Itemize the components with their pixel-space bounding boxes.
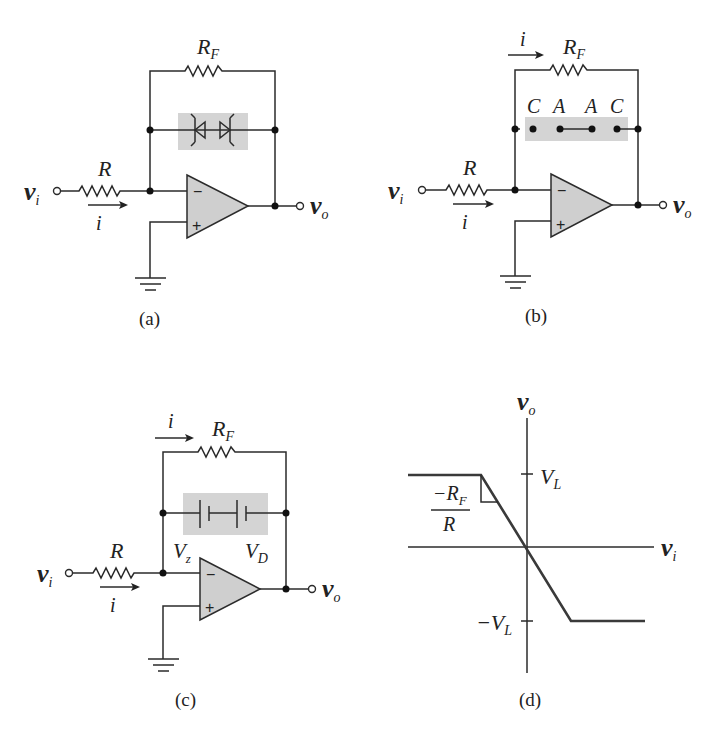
terminal-a-left	[557, 126, 564, 133]
rf-label: RF	[211, 416, 234, 444]
vl-positive-label: VL	[540, 464, 561, 492]
caption-b: (b)	[525, 305, 547, 327]
vi-label: vi	[388, 176, 404, 207]
panel-b: C A A C i − + RF R vi vo i (b)	[388, 28, 692, 327]
ground-icon	[135, 278, 166, 290]
input-terminal	[419, 187, 426, 194]
terminal-a-right	[589, 126, 596, 133]
vz-label: Vz	[173, 539, 191, 566]
caption-c: (c)	[175, 689, 196, 711]
rf-label: RF	[562, 34, 585, 62]
svg-text:−RF: −RF	[433, 482, 468, 508]
output-terminal	[297, 203, 304, 210]
current-label: i	[520, 28, 526, 50]
r-label: R	[109, 538, 124, 563]
terminal-c-label: C	[610, 95, 624, 117]
caption-a: (a)	[139, 308, 160, 330]
terminal-a-label: A	[551, 95, 566, 117]
input-resistor	[426, 185, 551, 195]
vo-axis-label: vo	[517, 387, 536, 418]
ground-wire	[515, 221, 551, 276]
slope-label: −RF R	[431, 482, 470, 535]
svg-text:R: R	[442, 513, 455, 535]
input-resistor	[73, 568, 200, 578]
noninverting-input-sign: +	[192, 217, 201, 234]
ground-icon	[500, 276, 531, 288]
inverting-input-sign: −	[206, 566, 215, 583]
ground-wire	[163, 606, 200, 659]
vo-label: vo	[673, 190, 692, 221]
figure-canvas: − + RF R vi vo i (a) C A A C i	[0, 0, 719, 730]
noninverting-input-sign: +	[556, 216, 565, 233]
input-terminal	[54, 188, 61, 195]
output-terminal	[309, 586, 316, 593]
input-terminal	[66, 570, 73, 577]
rf-label: RF	[196, 34, 219, 62]
vo-label: vo	[322, 574, 341, 605]
r-label: R	[462, 155, 477, 180]
ground-wire	[150, 222, 187, 278]
current-label: i	[96, 212, 102, 234]
vi-label: vi	[24, 177, 40, 208]
battery-shade-box	[183, 493, 268, 535]
r-label: R	[97, 156, 112, 181]
caption-d: (d)	[519, 689, 541, 711]
vi-label: vi	[37, 559, 53, 590]
noninverting-input-sign: +	[205, 599, 214, 616]
inverting-input-sign: −	[557, 182, 566, 199]
current-label: i	[168, 410, 174, 432]
inverting-input-sign: −	[193, 183, 202, 200]
panel-a: − + RF R vi vo i (a)	[24, 34, 329, 330]
vi-axis-label: vi	[661, 533, 677, 564]
terminal-a-label: A	[583, 95, 598, 117]
panel-d: vo vi VL −VL −RF R (d)	[408, 387, 677, 711]
vl-negative-label: −VL	[476, 610, 512, 638]
terminal-c-right	[614, 126, 621, 133]
current-label: i	[110, 594, 116, 616]
vo-label: vo	[310, 191, 329, 222]
terminal-c-left	[530, 126, 537, 133]
current-label: i	[462, 211, 468, 233]
zener-shade-box	[178, 113, 248, 150]
terminal-c-label: C	[527, 95, 541, 117]
panel-c: Vz VD i − + RF R vi vo i (c)	[37, 410, 341, 711]
input-resistor	[61, 186, 187, 196]
ground-icon	[148, 659, 179, 671]
output-terminal	[660, 202, 667, 209]
vd-label: VD	[245, 539, 268, 566]
